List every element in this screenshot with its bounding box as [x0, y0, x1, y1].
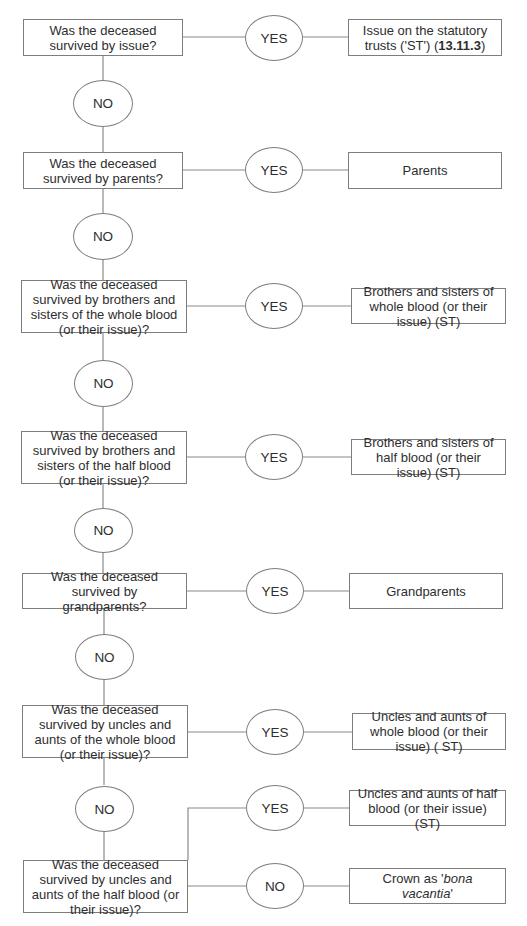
outcome-text: Parents	[403, 163, 448, 178]
outcome-text: Brothers and sisters of half blood (or t…	[358, 435, 499, 480]
outcome-uncles-aunts-half-blood: Uncles and aunts of half blood (or their…	[349, 790, 506, 826]
outcome-siblings-half-blood: Brothers and sisters of half blood (or t…	[351, 439, 506, 475]
yes-label: YES	[260, 450, 287, 465]
yes-label: YES	[260, 31, 287, 46]
section-reference: 13.11.3	[438, 38, 481, 53]
question-survived-by-parents: Was the deceased survived by parents?	[23, 152, 183, 189]
no-decision-2: NO	[73, 213, 133, 260]
no-label: NO	[93, 523, 113, 538]
outcome-parents: Parents	[348, 152, 502, 189]
flowchart-canvas: Was the deceased survived by issue? YES …	[0, 0, 527, 926]
question-text: Was the deceased survived by brothers an…	[28, 277, 180, 337]
question-text: Was the deceased survived by grandparent…	[29, 569, 180, 614]
no-label: NO	[94, 802, 114, 817]
no-decision-1: NO	[73, 80, 133, 127]
yes-decision-5: YES	[246, 568, 304, 614]
outcome-text: Uncles and aunts of whole blood (or thei…	[359, 709, 499, 754]
no-label: NO	[93, 96, 113, 111]
question-survived-by-issue: Was the deceased survived by issue?	[23, 19, 183, 56]
question-survived-by-siblings-half-blood: Was the deceased survived by brothers an…	[21, 431, 187, 484]
no-decision-6: NO	[75, 786, 134, 832]
question-survived-by-uncles-aunts-half-blood: Was the deceased survived by uncles and …	[23, 860, 188, 913]
question-text: Was the deceased survived by issue?	[30, 23, 176, 53]
yes-decision-1: YES	[245, 15, 303, 61]
outcome-text: Brothers and sisters of whole blood (or …	[358, 284, 499, 329]
yes-label: YES	[260, 163, 287, 178]
no-label: NO	[265, 879, 285, 894]
outcome-text: Issue on the statutory trusts ('ST') (13…	[355, 23, 495, 53]
yes-label: YES	[260, 299, 287, 314]
yes-label: YES	[261, 725, 288, 740]
no-decision-3: NO	[74, 360, 133, 407]
question-text: Was the deceased survived by uncles and …	[30, 857, 181, 917]
question-survived-by-uncles-aunts-whole-blood: Was the deceased survived by uncles and …	[22, 705, 188, 758]
yes-decision-4: YES	[245, 434, 303, 480]
yes-decision-7: YES	[246, 785, 304, 831]
question-text: Was the deceased survived by parents?	[30, 156, 176, 186]
question-text: Was the deceased survived by brothers an…	[28, 428, 180, 488]
no-decision-5: NO	[75, 634, 134, 680]
yes-decision-6: YES	[246, 709, 304, 755]
yes-decision-3: YES	[245, 283, 303, 329]
outcome-text: Grandparents	[386, 584, 466, 599]
outcome-uncles-aunts-whole-blood: Uncles and aunts of whole blood (or thei…	[352, 713, 506, 750]
yes-label: YES	[261, 801, 288, 816]
no-label: NO	[93, 376, 113, 391]
outcome-grandparents: Grandparents	[349, 573, 503, 609]
question-survived-by-siblings-whole-blood: Was the deceased survived by brothers an…	[21, 280, 187, 333]
yes-decision-2: YES	[245, 147, 303, 193]
outcome-issue-statutory-trusts: Issue on the statutory trusts ('ST') (13…	[348, 19, 502, 56]
outcome-text: Crown as 'bona vacantia'	[356, 871, 499, 901]
yes-label: YES	[261, 584, 288, 599]
question-text: Was the deceased survived by uncles and …	[29, 702, 181, 762]
no-decision-7: NO	[246, 863, 304, 909]
no-decision-4: NO	[74, 508, 133, 553]
outcome-text: Uncles and aunts of half blood (or their…	[356, 786, 499, 831]
outcome-crown-bona-vacantia: Crown as 'bona vacantia'	[349, 868, 506, 904]
no-label: NO	[94, 650, 114, 665]
question-survived-by-grandparents: Was the deceased survived by grandparent…	[22, 573, 187, 609]
outcome-siblings-whole-blood: Brothers and sisters of whole blood (or …	[351, 288, 506, 324]
no-label: NO	[93, 229, 113, 244]
